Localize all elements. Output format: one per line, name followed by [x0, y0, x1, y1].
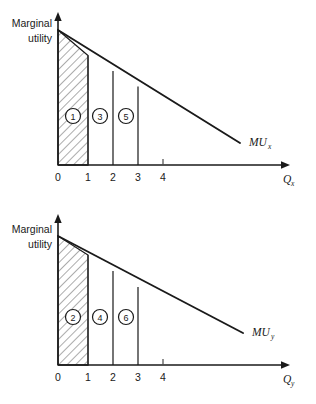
- x-axis-arrowhead: [281, 361, 290, 368]
- unit-marker-6: 6: [119, 310, 134, 325]
- y-axis-label-line1: Marginal: [12, 223, 52, 235]
- x-tick-label-4: 4: [160, 371, 166, 383]
- unit-marker-6-label: 6: [123, 313, 128, 323]
- unit-marker-1: 1: [66, 109, 81, 124]
- shaded-unit-region: [58, 30, 88, 165]
- y-axis-label-line2: utility: [28, 238, 53, 250]
- x-tick-label-3: 3: [135, 171, 141, 183]
- unit-marker-2: 2: [66, 310, 81, 325]
- curve-label-subscript: x: [267, 142, 272, 151]
- unit-marker-4: 4: [93, 310, 108, 325]
- x-tick-label-0: 0: [55, 171, 61, 183]
- x-axis-title-subscript: x: [290, 179, 295, 188]
- y-axis-label-line1: Marginal: [12, 17, 52, 29]
- unit-marker-3-label: 3: [97, 112, 102, 122]
- x-tick-label-4: 4: [160, 171, 166, 183]
- unit-marker-5-label: 5: [123, 112, 128, 122]
- x-tick-label-2: 2: [110, 371, 116, 383]
- y-axis-arrowhead: [54, 214, 61, 223]
- x-axis-title-subscript: y: [290, 379, 295, 388]
- y-axis-label-line2: utility: [28, 32, 53, 44]
- x-tick-label-1: 1: [85, 171, 91, 183]
- unit-marker-3: 3: [93, 109, 108, 124]
- y-axis-arrowhead: [54, 12, 61, 21]
- x-tick-label-2: 2: [110, 171, 116, 183]
- x-tick-label-1: 1: [85, 371, 91, 383]
- unit-marker-1-label: 1: [70, 112, 75, 122]
- x-tick-label-0: 0: [55, 371, 61, 383]
- unit-marker-5: 5: [119, 109, 134, 124]
- marginal-utility-chart-x: Marginal utility 0 1 2 3 4 Q x MU x 1 3 …: [0, 0, 316, 202]
- unit-marker-2-label: 2: [70, 313, 75, 323]
- curve-label: MU: [248, 136, 268, 148]
- marginal-utility-chart-y: Marginal utility 0 1 2 3 4 Q y MU y 2 4 …: [0, 202, 316, 404]
- x-tick-label-3: 3: [135, 371, 141, 383]
- curve-label: MU: [251, 326, 271, 338]
- x-axis-arrowhead: [281, 161, 290, 168]
- shaded-unit-region: [58, 236, 88, 365]
- curve-label-subscript: y: [270, 332, 275, 341]
- unit-marker-4-label: 4: [97, 313, 102, 323]
